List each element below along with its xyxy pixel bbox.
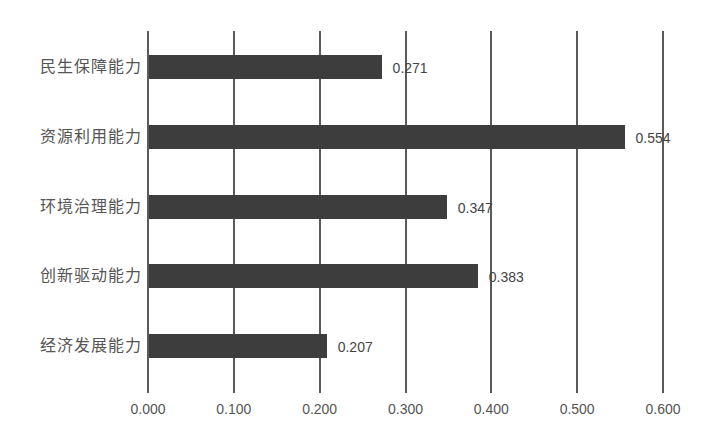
bar [149,125,625,149]
category-label: 民生保障能力 [0,55,142,79]
gridline [662,31,664,393]
bar [149,195,447,219]
category-label: 创新驱动能力 [0,264,142,288]
x-tick-label: 0.600 [628,401,698,417]
value-label: 0.347 [458,196,493,220]
category-label: 经济发展能力 [0,334,142,358]
bar [149,334,327,358]
x-tick-label: 0.100 [199,401,269,417]
bar [149,264,478,288]
value-label: 0.383 [489,265,524,289]
category-label: 环境治理能力 [0,195,142,219]
value-label: 0.554 [636,126,671,150]
category-label: 资源利用能力 [0,125,142,149]
x-tick-label: 0.000 [113,401,183,417]
value-label: 0.271 [393,56,428,80]
bar [149,55,382,79]
x-tick-label: 0.400 [456,401,526,417]
x-tick-label: 0.300 [371,401,441,417]
value-label: 0.207 [338,335,373,359]
x-tick-label: 0.500 [542,401,612,417]
horizontal-bar-chart: 民生保障能力资源利用能力环境治理能力创新驱动能力经济发展能力 0.2710.55… [0,0,704,444]
gridline [576,31,578,393]
x-tick-label: 0.200 [285,401,355,417]
